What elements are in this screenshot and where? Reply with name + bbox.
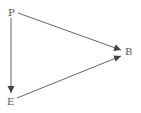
diagram-svg: P B E — [0, 0, 141, 113]
node-b-label: B — [125, 46, 132, 57]
node-p-label: P — [8, 7, 15, 18]
diagram-canvas: P B E — [0, 0, 141, 113]
edge-p-to-b — [18, 13, 121, 50]
node-e-label: E — [7, 96, 14, 107]
edge-e-to-b — [17, 56, 121, 98]
